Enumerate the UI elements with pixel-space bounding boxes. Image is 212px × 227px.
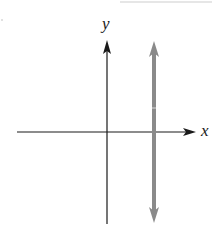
coordinate-plane: y x (0, 0, 212, 227)
x-axis-label: x (201, 122, 209, 139)
corner-dot-artifact (1, 19, 3, 21)
graph-svg (0, 0, 212, 227)
y-axis-label: y (102, 15, 110, 32)
